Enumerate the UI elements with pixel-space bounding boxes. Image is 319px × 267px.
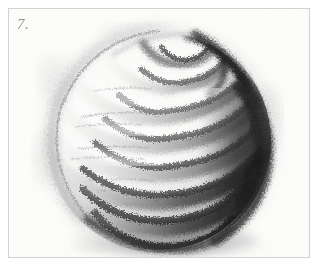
drawing-page: 7. — [0, 0, 319, 267]
plate-number-label: 7. — [17, 16, 29, 33]
sphere-drawing — [9, 9, 309, 257]
